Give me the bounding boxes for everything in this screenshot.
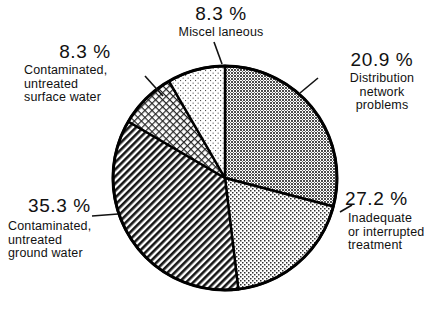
pie-label-ground-water: 35.3 % Contaminated, untreated ground wa… [8, 196, 140, 261]
pie-percent-treatment: 27.2 % [345, 189, 444, 208]
pie-chart-figure: 8.3 % Miscel laneous 8.3 % Contaminated,… [0, 0, 444, 310]
pie-percent-distribution: 20.9 % [320, 50, 444, 69]
pie-percent-miscellaneous: 8.3 % [146, 4, 296, 23]
leader-line-distribution [300, 78, 318, 93]
leader-line-miscellaneous [214, 42, 222, 64]
pie-caption-distribution: Distribution network problems [320, 72, 444, 113]
pie-percent-ground-water: 35.3 % [8, 196, 140, 215]
pie-percent-surface-water: 8.3 % [24, 42, 160, 61]
pie-caption-treatment: Inadequate or interrupted treatment [348, 212, 444, 253]
pie-label-miscellaneous: 8.3 % Miscel laneous [146, 4, 296, 40]
pie-label-treatment: 27.2 % Inadequate or interrupted treatme… [348, 189, 444, 253]
pie-caption-ground-water: Contaminated, untreated ground water [8, 220, 140, 261]
pie-caption-surface-water: Contaminated, untreated surface water [24, 64, 160, 105]
pie-caption-miscellaneous: Miscel laneous [146, 26, 296, 40]
pie-label-surface-water: 8.3 % Contaminated, untreated surface wa… [24, 42, 160, 105]
pie-label-distribution: 20.9 % Distribution network problems [320, 50, 444, 113]
